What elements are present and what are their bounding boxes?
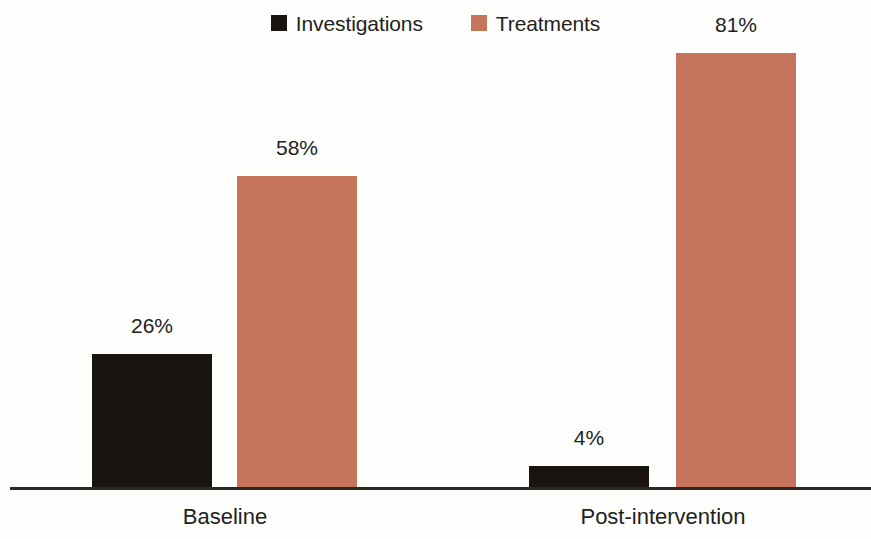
plot-area: 26% 58% 4% 81%	[0, 0, 871, 492]
bar-chart: Investigations Treatments 26% 58% 4% 81%…	[0, 0, 871, 539]
bar-investigations-baseline[interactable]	[92, 354, 212, 488]
bar-investigations-post-intervention[interactable]	[529, 466, 649, 488]
bar-value-label: 58%	[237, 137, 357, 158]
axis-baseline	[10, 487, 871, 490]
bar-value-label: 26%	[92, 315, 212, 336]
bar-treatments-baseline[interactable]	[237, 176, 357, 488]
category-label-post-intervention: Post-intervention	[548, 504, 778, 530]
bar-treatments-post-intervention[interactable]	[676, 53, 796, 488]
bar-value-label: 4%	[529, 427, 649, 448]
category-label-baseline: Baseline	[125, 504, 325, 530]
bar-value-label: 81%	[676, 14, 796, 35]
